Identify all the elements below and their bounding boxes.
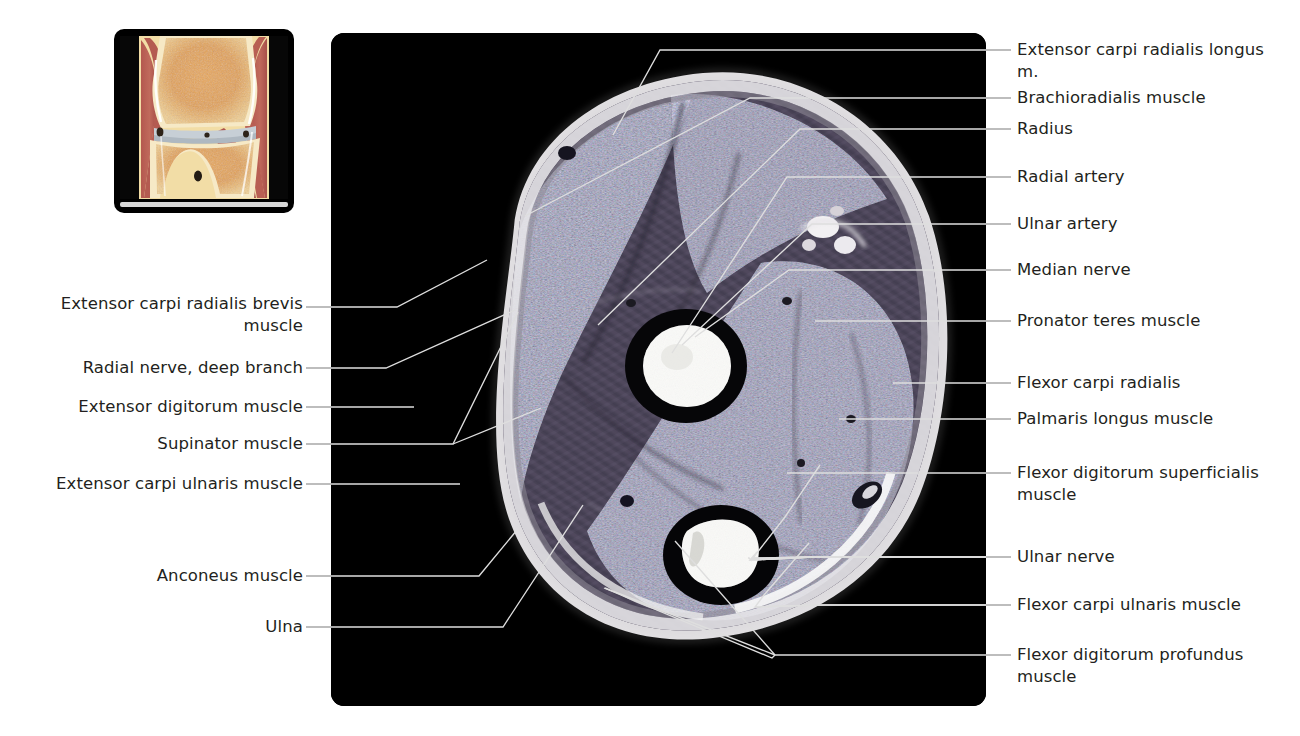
label-flexor-carpi-radialis[interactable]: Flexor carpi radialis — [1017, 372, 1295, 394]
label-extensor-carpi-ulnaris[interactable]: Extensor carpi ulnaris muscle — [20, 473, 303, 495]
label-median-nerve[interactable]: Median nerve — [1017, 259, 1295, 281]
label-flexor-digitorum-profundus[interactable]: Flexor digitorum profundus muscle — [1017, 644, 1295, 687]
label-flexor-carpi-ulnaris[interactable]: Flexor carpi ulnaris muscle — [1017, 594, 1295, 616]
label-radius[interactable]: Radius — [1017, 118, 1295, 140]
label-ulnar-nerve[interactable]: Ulnar nerve — [1017, 546, 1295, 568]
forearm-axial-mri-image — [331, 33, 986, 706]
label-radial-nerve-deep-branch[interactable]: Radial nerve, deep branch — [20, 357, 303, 379]
label-extensor-carpi-radialis-brevis[interactable]: Extensor carpi radialis brevis muscle — [20, 293, 303, 336]
label-ulna[interactable]: Ulna — [20, 616, 303, 638]
label-supinator[interactable]: Supinator muscle — [20, 433, 303, 455]
figure-root: Extensor carpi radialis brevis muscle Ra… — [0, 0, 1300, 736]
forearm-axial-mri-panel[interactable] — [331, 33, 986, 706]
elbow-coronal-orientation-thumbnail[interactable] — [114, 29, 294, 213]
label-radial-artery[interactable]: Radial artery — [1017, 166, 1295, 188]
label-brachioradialis[interactable]: Brachioradialis muscle — [1017, 87, 1295, 109]
label-extensor-carpi-radialis-longus[interactable]: Extensor carpi radialis longus m. — [1017, 39, 1295, 82]
label-anconeus[interactable]: Anconeus muscle — [20, 565, 303, 587]
label-extensor-digitorum[interactable]: Extensor digitorum muscle — [20, 396, 303, 418]
thumbnail-image — [120, 36, 288, 199]
label-flexor-digitorum-superficialis[interactable]: Flexor digitorum superficialis muscle — [1017, 462, 1295, 505]
thumbnail-baseline — [120, 202, 288, 207]
label-ulnar-artery[interactable]: Ulnar artery — [1017, 213, 1295, 235]
label-palmaris-longus[interactable]: Palmaris longus muscle — [1017, 408, 1295, 430]
label-pronator-teres[interactable]: Pronator teres muscle — [1017, 310, 1295, 332]
